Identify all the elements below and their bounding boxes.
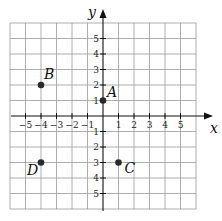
point-d <box>38 159 45 166</box>
y-tick-label: 2 <box>93 80 99 90</box>
x-tick-label: 2 <box>131 120 137 130</box>
y-tick-label: 4 <box>93 173 99 183</box>
x-tick-label: −2 <box>65 120 78 130</box>
x-axis-label: x <box>210 120 218 136</box>
y-tick-label: 1 <box>93 127 99 137</box>
x-tick-label: 1 <box>116 120 122 130</box>
x-tick-label: −4 <box>34 120 48 130</box>
point-label-c: C <box>125 160 136 176</box>
point-b <box>38 82 45 89</box>
x-tick-label: 5 <box>178 120 184 130</box>
point-c <box>115 159 122 166</box>
x-tick-label: −3 <box>50 120 64 130</box>
point-label-d: D <box>26 162 38 178</box>
x-tick-label: −1 <box>81 120 94 130</box>
y-tick-label: 4 <box>93 49 99 59</box>
point-label-b: B <box>43 66 54 82</box>
y-tick-label: 5 <box>93 34 99 44</box>
y-tick-label: 3 <box>93 65 99 75</box>
point-label-a: A <box>105 84 117 100</box>
coordinate-plane: x y −5−4−3−2−1123455432112345 ABCD <box>0 0 222 221</box>
x-tick-label: 4 <box>162 120 168 130</box>
y-axis-arrow-icon <box>100 9 107 18</box>
y-tick-label: 2 <box>93 142 99 152</box>
y-tick-label: 3 <box>93 158 99 168</box>
point-a <box>100 97 107 104</box>
axes: x y <box>11 4 218 211</box>
y-axis-label: y <box>87 4 97 20</box>
x-tick-label: −5 <box>19 120 33 130</box>
y-tick-label: 5 <box>93 189 99 199</box>
x-axis-arrow-icon <box>204 113 213 120</box>
y-tick-label: 1 <box>93 96 99 106</box>
x-tick-label: 3 <box>147 120 153 130</box>
